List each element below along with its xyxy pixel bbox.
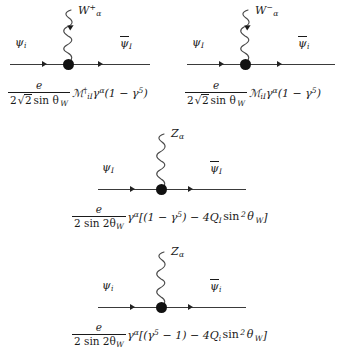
sqrt-group: √2 bbox=[17, 94, 32, 106]
fermion-index: I bbox=[201, 41, 204, 50]
bracket-open: [(1 − γ bbox=[139, 210, 177, 223]
fermion-index: I bbox=[129, 42, 132, 51]
boson-index: α bbox=[179, 132, 184, 141]
fermion-arrow-outgoing bbox=[188, 186, 193, 192]
denominator-rest: sin θ bbox=[32, 94, 60, 106]
diagram-z-light-vertex: Zα ψi ψi e 2 sin 2θW γα[(γ5 − 1) − 4Qisi… bbox=[58, 240, 308, 360]
fermion-symbol-barred: ψ bbox=[298, 36, 307, 49]
bracket-open: [(γ bbox=[139, 328, 154, 341]
fermion-index: I bbox=[111, 166, 114, 175]
boson-label: Zα bbox=[171, 246, 184, 259]
bracket-middle: − 1) − 4Q bbox=[159, 328, 219, 341]
fermion-arrow-incoming bbox=[42, 61, 47, 67]
fermion-line bbox=[10, 64, 150, 65]
boson-charge: − bbox=[266, 3, 273, 12]
weinberg-angle-index: W bbox=[60, 99, 68, 108]
fermion-arrow-outgoing bbox=[98, 61, 103, 67]
sqrt-radicand: 2 bbox=[201, 94, 209, 106]
theta-symbol: θ bbox=[246, 210, 256, 223]
interaction-vertex bbox=[156, 302, 167, 313]
chiral-projector-close: ) bbox=[143, 87, 147, 100]
chiral-projector-open: (1 − γ bbox=[105, 87, 139, 100]
fermion-symbol-barred: ψ bbox=[120, 36, 129, 49]
fermion-index: i bbox=[111, 284, 114, 293]
denominator-prefix: 2 bbox=[10, 94, 17, 106]
incoming-fermion-label: ψi bbox=[15, 37, 26, 50]
interaction-vertex bbox=[156, 184, 167, 195]
boson-charge: + bbox=[89, 3, 96, 12]
weinberg-angle-index: W bbox=[237, 99, 245, 108]
boson-symbol: W bbox=[255, 4, 266, 17]
outgoing-fermion-label: ψI bbox=[210, 161, 222, 175]
fermion-line bbox=[98, 307, 246, 308]
coupling-fraction: e 2√2sin θW bbox=[8, 80, 70, 108]
outgoing-fermion-label: ψI bbox=[120, 36, 132, 50]
formula-tail: ℳiIγα(1 − γ5) bbox=[248, 87, 321, 100]
sqrt-symbol: √ bbox=[18, 94, 25, 106]
denominator-prefix: 2 sin 2θ bbox=[74, 217, 116, 229]
fraction-denominator: 2√2sin θW bbox=[8, 93, 70, 108]
outgoing-fermion-label: ψi bbox=[210, 279, 221, 293]
z-boson-propagator bbox=[151, 132, 173, 190]
feynman-diagram-sheet: W+α ψi ψI e 2√2sin θW ℳ†iIγα(1 − γ5) bbox=[0, 0, 353, 360]
sin-function: sin bbox=[222, 210, 241, 223]
formula-tail: ℳ†iIγα(1 − γ5) bbox=[71, 87, 148, 101]
coupling-fraction: e 2 sin 2θW bbox=[72, 204, 126, 231]
sin-function: sin bbox=[221, 328, 240, 341]
formula-tail: γα[(γ5 − 1) − 4Qisin2θW] bbox=[127, 329, 267, 342]
sqrt-group: √2 bbox=[194, 94, 209, 106]
gamma-matrix: γ bbox=[127, 210, 134, 223]
mixing-matrix: ℳ bbox=[249, 87, 261, 100]
diagram-graph: Zα ψi ψi bbox=[58, 240, 308, 318]
theta-symbol: θ bbox=[245, 328, 255, 341]
boson-index: α bbox=[179, 250, 184, 259]
fermion-symbol: ψ bbox=[102, 279, 111, 292]
interaction-vertex bbox=[240, 59, 251, 70]
outgoing-fermion-label: ψi bbox=[298, 36, 309, 50]
boson-symbol: W bbox=[78, 4, 89, 17]
fermion-symbol-barred: ψ bbox=[210, 279, 219, 292]
fermion-symbol-barred: ψ bbox=[210, 161, 219, 174]
amplitude-formula: e 2 sin 2θW γα[(γ5 − 1) − 4Qisin2θW] bbox=[72, 322, 267, 349]
fermion-arrow-incoming bbox=[130, 186, 135, 192]
w-boson-propagator bbox=[235, 8, 257, 64]
boson-symbol: Z bbox=[171, 245, 179, 258]
fermion-arrow-incoming bbox=[219, 61, 224, 67]
amplitude-formula: e 2 sin 2θW γα[(1 − γ5) − 4QIsin2θW] bbox=[72, 204, 267, 231]
interaction-vertex bbox=[63, 59, 74, 70]
diagram-z-heavy-vertex: Zα ψI ψI e 2 sin 2θW γα[(1 − γ5) − 4QIsi… bbox=[58, 122, 308, 240]
incoming-fermion-label: ψI bbox=[102, 162, 114, 175]
bracket-close: ] bbox=[263, 210, 267, 223]
fermion-symbol: ψ bbox=[15, 36, 24, 49]
z-boson-propagator bbox=[151, 250, 173, 308]
bracket-middle: ) − 4Q bbox=[182, 210, 219, 223]
fraction-numerator: e bbox=[33, 80, 45, 92]
fraction-numerator: e bbox=[93, 204, 105, 216]
incoming-fermion-label: ψi bbox=[102, 280, 113, 293]
fraction-numerator: e bbox=[210, 80, 222, 92]
fermion-line bbox=[187, 64, 335, 65]
boson-index: α bbox=[96, 9, 101, 18]
sqrt-symbol: √ bbox=[195, 94, 202, 106]
chiral-projector-open: (1 − γ bbox=[278, 87, 312, 100]
boson-label: W−α bbox=[255, 4, 278, 17]
gamma-matrix: γ bbox=[266, 87, 273, 100]
fermion-index: I bbox=[219, 167, 222, 176]
fermion-arrow-outgoing bbox=[188, 304, 193, 310]
weinberg-angle-index: W bbox=[116, 222, 124, 231]
boson-index: α bbox=[273, 9, 278, 18]
fermion-arrow-incoming bbox=[130, 304, 135, 310]
fraction-denominator: 2 sin 2θW bbox=[72, 217, 126, 231]
diagram-w-plus-vertex: W+α ψi ψI e 2√2sin θW ℳ†iIγα(1 − γ5) bbox=[0, 0, 176, 120]
diagram-graph: W+α ψi ψI bbox=[0, 0, 176, 75]
amplitude-formula: e 2√2sin θW ℳiIγα(1 − γ5) bbox=[185, 80, 321, 108]
fermion-arrow-outgoing bbox=[277, 61, 282, 67]
mixing-matrix: ℳ bbox=[72, 87, 84, 100]
fermion-line bbox=[98, 189, 246, 190]
gamma-matrix: γ bbox=[127, 328, 134, 341]
fermion-symbol: ψ bbox=[102, 161, 111, 174]
chiral-projector-close: ) bbox=[317, 87, 321, 100]
fermion-index: i bbox=[24, 41, 27, 50]
w-boson-propagator bbox=[58, 8, 80, 64]
diagram-graph: Zα ψI ψI bbox=[58, 122, 308, 200]
